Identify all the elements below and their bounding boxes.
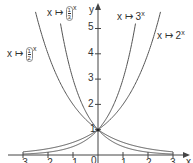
curve-base-3 xyxy=(23,24,136,155)
x-tick-label: -1 xyxy=(69,158,78,163)
label-half-power: x ↦ 12x xyxy=(7,47,36,62)
curve-base-0_5 xyxy=(36,12,174,152)
intersection-point xyxy=(96,128,99,131)
x-axis-label: x xyxy=(186,157,191,163)
point-one-label: 1 xyxy=(90,124,96,134)
y-axis-arrow-icon xyxy=(95,3,101,10)
y-tick-label: 4 xyxy=(88,48,94,58)
plot-canvas xyxy=(0,0,193,163)
x-tick-label: 3 xyxy=(170,158,176,163)
fraction-half: 12 xyxy=(26,47,33,62)
origin-label: 0 xyxy=(91,156,97,163)
fraction-third: 13 xyxy=(66,6,73,21)
x-tick-label: -3 xyxy=(19,158,28,163)
x-tick-label: 1 xyxy=(121,158,127,163)
label-three-power: x ↦ 3x xyxy=(117,12,145,22)
x-tick-label: 2 xyxy=(146,158,152,163)
label-two-power: x ↦ 2x xyxy=(157,31,185,41)
label-third-power: x ↦ 13x xyxy=(47,6,76,21)
y-axis-label: y xyxy=(89,5,94,15)
y-tick-label: 5 xyxy=(88,22,94,32)
y-tick-label: 3 xyxy=(88,73,94,83)
curve-base-0_3333 xyxy=(61,24,174,155)
y-tick-label: 2 xyxy=(88,99,94,109)
x-tick-label: -2 xyxy=(44,158,53,163)
